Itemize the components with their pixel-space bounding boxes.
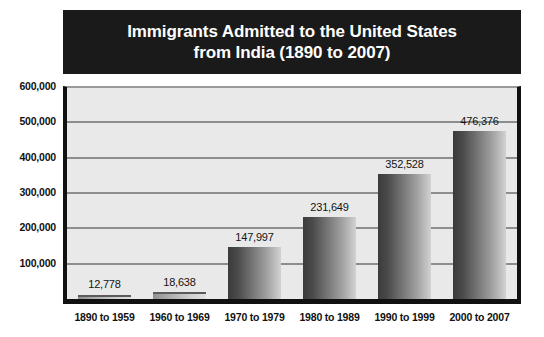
y-axis-tick-label: 600,000 <box>0 80 56 92</box>
y-axis-tick-label: 200,000 <box>0 221 56 233</box>
bar-value-label: 352,528 <box>367 158 442 170</box>
gridline <box>67 87 517 88</box>
bar <box>453 131 506 299</box>
y-axis-tick-label: 300,000 <box>0 186 56 198</box>
x-axis-category-label: 1990 to 1999 <box>367 311 442 323</box>
x-axis-category-label: 1960 to 1969 <box>142 311 217 323</box>
x-axis-category-label: 1980 to 1989 <box>292 311 367 323</box>
chart-title-banner: Immigrants Admitted to the United States… <box>63 10 521 74</box>
bar-value-label: 12,778 <box>67 278 142 290</box>
bar <box>228 247 281 299</box>
bar-value-label: 147,997 <box>217 231 292 243</box>
bar <box>153 292 206 299</box>
gridline <box>67 263 517 265</box>
y-axis-tick-label: 100,000 <box>0 257 56 269</box>
bar-value-label: 231,649 <box>292 201 367 213</box>
bar-value-label: 476,376 <box>442 115 517 127</box>
y-axis-tick-label: 400,000 <box>0 151 56 163</box>
bar-value-label: 18,638 <box>142 276 217 288</box>
chart-title-line-1: Immigrants Admitted to the United States <box>127 21 457 42</box>
x-axis-category-label: 1890 to 1959 <box>67 311 142 323</box>
x-axis-category-label: 1970 to 1979 <box>217 311 292 323</box>
y-axis-tick-label: 500,000 <box>0 115 56 127</box>
gridline <box>67 192 517 194</box>
bar <box>378 174 431 299</box>
chart-container: Immigrants Admitted to the United States… <box>0 0 544 337</box>
x-axis-category-label: 2000 to 2007 <box>442 311 517 323</box>
bar <box>303 217 356 299</box>
chart-title-line-2: from India (1890 to 2007) <box>194 42 391 63</box>
gridline <box>67 227 517 229</box>
gridline <box>67 157 517 159</box>
bar <box>78 295 131 300</box>
